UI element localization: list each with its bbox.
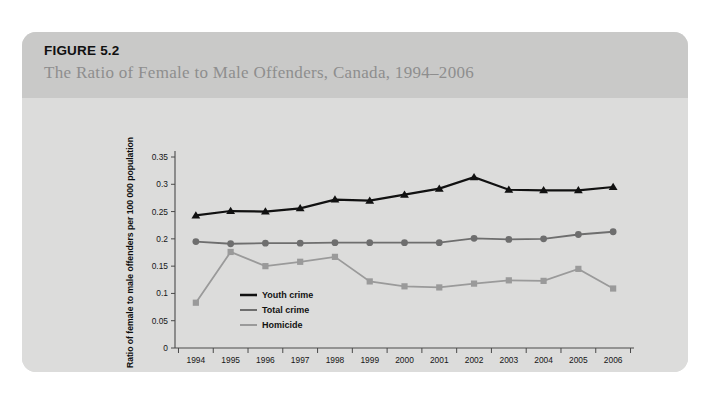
figure-title: The Ratio of Female to Male Offenders, C…	[44, 63, 474, 83]
data-point	[575, 231, 582, 238]
x-tick-label: 1997	[291, 355, 310, 365]
y-tick-label: 0.3	[156, 179, 168, 189]
data-point	[470, 173, 479, 180]
figure-card: FIGURE 5.2 The Ratio of Female to Male O…	[22, 32, 688, 372]
data-point	[506, 277, 512, 283]
data-series-group	[191, 173, 617, 306]
y-axis: 00.050.10.150.20.250.30.35	[152, 151, 175, 353]
figure-header-band: FIGURE 5.2 The Ratio of Female to Male O…	[22, 32, 688, 98]
x-tick-label: 1995	[221, 355, 240, 365]
data-point	[193, 300, 199, 306]
figure-number-label: FIGURE 5.2	[44, 43, 120, 58]
x-tick-label: 2006	[604, 355, 623, 365]
x-tick-label: 2005	[569, 355, 588, 365]
data-point	[540, 278, 546, 284]
data-point	[332, 254, 338, 260]
data-point	[228, 249, 234, 255]
chart-plot-area: 00.050.10.150.20.250.30.35 1994199519961…	[22, 98, 688, 372]
x-tick-label: 2001	[430, 355, 449, 365]
data-point	[401, 239, 408, 246]
data-point	[610, 285, 616, 291]
y-tick-label: 0.15	[152, 261, 169, 271]
x-tick-label: 2004	[534, 355, 553, 365]
data-point	[540, 235, 547, 242]
data-point	[436, 284, 442, 290]
data-point	[575, 266, 581, 272]
chart-legend: Youth crimeTotal crimeHomicide	[240, 290, 313, 330]
y-tick-label: 0.1	[156, 288, 168, 298]
data-point	[610, 228, 617, 235]
data-point	[192, 238, 199, 245]
figure-body: 00.050.10.150.20.250.30.35 1994199519961…	[22, 98, 688, 372]
y-tick-label: 0.05	[152, 316, 169, 326]
x-tick-label: 2003	[499, 355, 518, 365]
series-homicide	[193, 249, 616, 306]
data-point	[366, 239, 373, 246]
legend-label: Youth crime	[262, 290, 313, 300]
series-youth-crime	[191, 173, 617, 218]
data-point	[262, 263, 268, 269]
data-point	[436, 239, 443, 246]
data-point	[297, 259, 303, 265]
y-tick-label: 0.35	[152, 152, 169, 162]
x-axis-title: Year	[395, 370, 414, 372]
data-point	[332, 239, 339, 246]
data-point	[471, 235, 478, 242]
line-chart-svg: 00.050.10.150.20.250.30.35 1994199519961…	[22, 98, 688, 372]
legend-label: Total crime	[262, 305, 309, 315]
data-point	[297, 240, 304, 247]
data-point	[505, 236, 512, 243]
series-line	[196, 252, 613, 303]
data-point	[262, 240, 269, 247]
legend-label: Homicide	[262, 320, 303, 330]
x-tick-label: 1999	[360, 355, 379, 365]
series-total-crime	[192, 228, 616, 247]
y-tick-label: 0.25	[152, 207, 169, 217]
data-point	[401, 283, 407, 289]
x-tick-label: 1996	[256, 355, 275, 365]
x-axis: 1994199519961997199819992000200120022003…	[175, 348, 634, 365]
data-point	[227, 240, 234, 247]
data-point	[367, 278, 373, 284]
y-axis-title: Ratio of female to male offenders per 10…	[125, 137, 135, 368]
y-tick-label: 0.2	[156, 234, 168, 244]
x-tick-label: 1998	[326, 355, 345, 365]
x-tick-label: 1994	[187, 355, 206, 365]
x-tick-label: 2000	[395, 355, 414, 365]
x-tick-label: 2002	[465, 355, 484, 365]
data-point	[471, 281, 477, 287]
y-tick-label: 0	[163, 343, 168, 353]
